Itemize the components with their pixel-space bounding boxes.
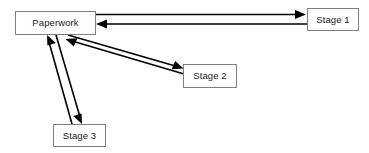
node-stage-3-label: Stage 3 (63, 131, 96, 141)
node-stage-2-label: Stage 2 (193, 71, 226, 81)
edge-line-stage3-to-paperwork (49, 42, 72, 124)
arrowhead-into-stage1 (295, 10, 306, 19)
arrowhead-into-paperwork-from-stage1 (96, 20, 107, 29)
edge-line-paperwork-to-stage3 (56, 35, 80, 117)
node-stage-1-label: Stage 1 (316, 15, 349, 25)
arrowhead-into-paperwork-from-stage3 (47, 35, 56, 46)
node-stage-3[interactable]: Stage 3 (53, 124, 106, 147)
edge-stage2-to-paperwork (66, 38, 185, 74)
diagram-canvas: Paperwork Stage 1 Stage 2 Stage 3 (0, 0, 369, 153)
arrowhead-into-stage3 (73, 113, 82, 124)
edge-paperwork-to-stage2 (68, 35, 184, 69)
edge-stage1-to-paperwork (96, 20, 307, 29)
edge-line-stage2-to-paperwork (72, 41, 184, 74)
node-stage-1[interactable]: Stage 1 (307, 8, 359, 31)
edge-paperwork-to-stage1 (96, 10, 306, 19)
node-paperwork-label: Paperwork (32, 18, 78, 28)
node-stage-2[interactable]: Stage 2 (183, 64, 237, 88)
edge-line-paperwork-to-stage2 (68, 35, 177, 67)
node-paperwork[interactable]: Paperwork (15, 11, 96, 35)
